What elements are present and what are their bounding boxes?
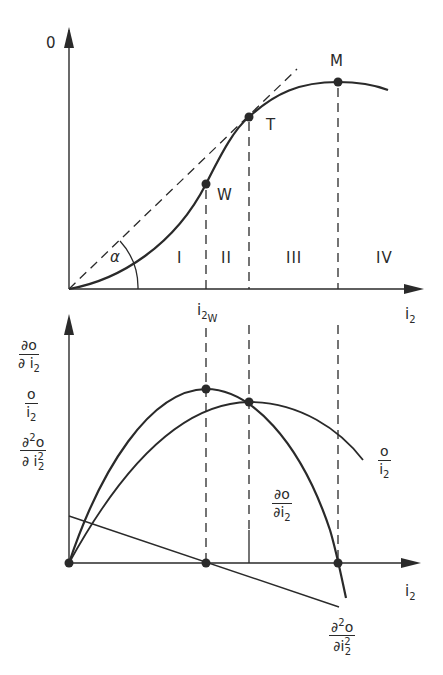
y-label-second-den-text: ∂ i — [22, 453, 38, 469]
y-label-marginal: ∂o ∂ i2 — [18, 338, 40, 374]
bottom-y-axis-arrow-icon — [64, 314, 74, 335]
curve-label-second-den-sub: 2 — [345, 646, 351, 657]
curve-label-average-num: o — [378, 444, 391, 461]
angle-alpha-arc — [120, 241, 138, 289]
angle-alpha-label: α — [110, 250, 120, 265]
y-label-marginal-den-sub: 2 — [34, 362, 40, 373]
top-y-axis-label: 0 — [46, 36, 56, 51]
y-label-second-num: ∂2o — [20, 433, 46, 451]
y-label-average-den: i2 — [26, 404, 36, 423]
top-x-axis-label: i2 — [405, 307, 416, 325]
curve-label-second-den: ∂i22 — [333, 636, 351, 657]
bottom-x-axis-label-sub: 2 — [409, 591, 415, 602]
curve-label-second-den-text: ∂i — [333, 638, 344, 654]
average-product-curve — [69, 402, 363, 563]
bottom-x-axis-arrow-icon — [401, 558, 421, 568]
y-label-marginal-den-text: ∂ i — [18, 355, 34, 371]
curve-label-marginal-den-text: ∂i — [273, 504, 284, 520]
bottom-chart — [64, 314, 421, 607]
i2w-tick-sub: 2W — [201, 310, 217, 321]
curve-label-average-den: i2 — [379, 461, 389, 480]
marginal-zero-point — [334, 559, 343, 568]
curve-label-marginal-den-sub: 2 — [284, 511, 290, 522]
region-ii-label: II — [221, 249, 232, 267]
y-label-second-num-tail: o — [36, 434, 45, 450]
point-t-label: T — [266, 118, 275, 133]
region-iv-label: IV — [376, 249, 393, 267]
curve-label-second: ∂2o ∂i22 — [329, 618, 355, 657]
point-m-label: M — [330, 54, 343, 69]
curve-label-marginal-num: ∂o — [272, 487, 292, 504]
top-y-axis-arrow-icon — [64, 27, 74, 48]
marginal-peak-point — [202, 385, 211, 394]
y-label-second-den: ∂ i22 — [22, 451, 44, 472]
i2w-tick-label: i2W — [197, 303, 217, 324]
y-label-marginal-num: ∂o — [19, 338, 39, 355]
y-label-average-num: o — [25, 387, 38, 404]
i2w-tick-subsub: W — [208, 313, 218, 324]
point-w — [202, 180, 211, 189]
diagram-canvas — [0, 0, 443, 675]
curve-label-second-num-tail: o — [345, 619, 354, 635]
y-label-marginal-den: ∂ i2 — [18, 355, 40, 374]
average-peak-point — [245, 398, 254, 407]
curve-label-average: o i2 — [378, 444, 391, 480]
region-i-label: I — [177, 249, 182, 267]
y-label-average: o i2 — [25, 387, 38, 423]
y-label-average-den-sub: 2 — [30, 411, 36, 422]
region-iii-label: III — [286, 249, 302, 267]
bottom-x-axis-label: i2 — [405, 584, 416, 602]
point-w-label: W — [217, 188, 232, 203]
top-x-axis-label-sub: 2 — [409, 314, 415, 325]
curve-label-average-den-sub: 2 — [383, 468, 389, 479]
point-m — [334, 78, 343, 87]
point-t — [245, 113, 254, 122]
top-x-axis-arrow-icon — [404, 284, 424, 294]
curve-label-marginal: ∂o ∂i2 — [272, 487, 292, 523]
curve-label-marginal-den: ∂i2 — [273, 504, 291, 523]
y-label-second-den-sub: 2 — [38, 461, 44, 472]
tangent-line — [69, 69, 297, 289]
bottom-origin-point — [65, 559, 74, 568]
y-label-second: ∂2o ∂ i22 — [20, 433, 46, 472]
curve-label-second-num: ∂2o — [329, 618, 355, 636]
inflection-zero-point — [202, 559, 211, 568]
